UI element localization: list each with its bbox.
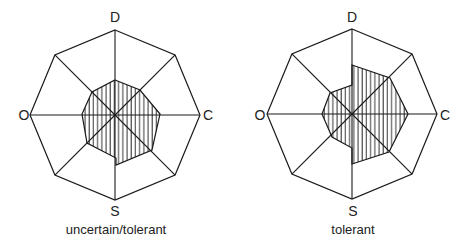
- chart-1-label-c: C: [440, 107, 450, 123]
- chart-0-caption: uncertain/tolerant: [66, 222, 167, 237]
- radar-chart-uncertain-tolerant: [30, 30, 200, 200]
- spoke-line: [292, 54, 352, 114]
- chart-0-label-d: D: [110, 9, 120, 25]
- chart-1-label-o: O: [255, 107, 266, 123]
- chart-0-label-o: O: [19, 107, 30, 123]
- spoke-line: [292, 114, 352, 174]
- chart-1-caption: tolerant: [331, 222, 375, 237]
- profile-polygon: [82, 80, 160, 165]
- radar-chart-tolerant: [267, 29, 437, 199]
- diagram-canvas: D C S O uncertain/tolerant D C S O toler…: [0, 0, 471, 247]
- chart-1-label-d: D: [347, 9, 357, 25]
- chart-0-label-s: S: [110, 203, 119, 219]
- chart-0-label-c: C: [203, 107, 213, 123]
- chart-1-label-s: S: [348, 203, 357, 219]
